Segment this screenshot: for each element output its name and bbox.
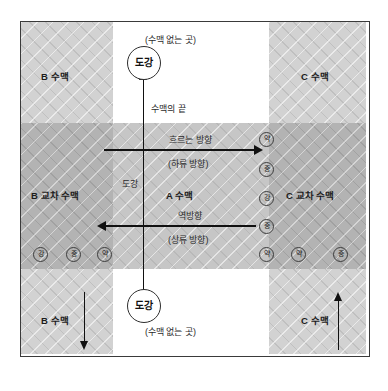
strength-token-right-5: 약 <box>259 247 274 262</box>
strength-token-right-row-1: 약 <box>291 247 306 262</box>
label-b-vein-bottom: B 수맥 <box>41 313 69 327</box>
arrow-flow-head <box>254 145 263 155</box>
label-reverse-direction-sub: (상류 방향) <box>168 233 209 246</box>
arrow-flow-shaft <box>104 149 256 151</box>
label-b-cross-vein: B 교차 수맥 <box>31 188 79 202</box>
label-c-vein-bottom: C 수맥 <box>301 313 329 327</box>
strength-token-right-3: 강 <box>259 191 274 206</box>
arrow-c-vein-up-head <box>334 292 342 301</box>
strength-token-right-1: 약 <box>259 132 274 147</box>
region-b-vein-bottom <box>21 269 113 354</box>
strength-token-right-4: 중 <box>259 219 274 234</box>
label-b-vein-top: B 수맥 <box>41 69 69 83</box>
label-reverse-direction: 역방향 <box>178 209 202 222</box>
region-c-vein-bottom <box>269 269 366 354</box>
arrow-b-vein-down-head <box>80 341 88 350</box>
label-empty-zone-bottom: (수맥 없는 곳) <box>145 325 196 338</box>
label-flow-direction: 흐르는 방향 <box>169 133 212 146</box>
arrow-down-shaft-bottom <box>143 192 144 290</box>
strength-token-right-row-2: 중 <box>333 247 348 262</box>
arrow-reverse-shaft <box>105 225 256 227</box>
crossing-circle-top: 도강 <box>127 46 161 80</box>
strength-token-left-row-2: 중 <box>66 247 81 262</box>
label-a-vein: A 수맥 <box>166 188 193 202</box>
diagram-canvas: B 수맥 C 수맥 B 교차 수맥 A 수맥 C 교차 수맥 B 수맥 C 수맥… <box>0 0 388 391</box>
strength-token-left-row-1: 강 <box>33 247 48 262</box>
diagram-frame: B 수맥 C 수맥 B 교차 수맥 A 수맥 C 교차 수맥 B 수맥 C 수맥… <box>20 21 370 357</box>
label-vein-end: 수맥의 끝 <box>151 102 186 115</box>
arrow-reverse-head <box>97 221 106 231</box>
label-c-vein-top: C 수맥 <box>301 69 329 83</box>
crossing-circle-bottom: 도강 <box>127 289 161 323</box>
strength-token-left-row-3: 약 <box>97 247 112 262</box>
label-flow-direction-sub: (하류 방향) <box>168 157 209 170</box>
arrow-b-vein-down-shaft <box>84 292 85 342</box>
label-crossing: 도강 <box>122 177 138 190</box>
arrow-c-vein-up-shaft <box>338 300 339 350</box>
label-empty-zone-top: (수맥 없는 곳) <box>145 33 196 46</box>
label-c-cross-vein: C 교차 수맥 <box>286 188 334 202</box>
strength-token-right-2: 중 <box>259 162 274 177</box>
arrow-up-shaft-top <box>143 79 144 194</box>
